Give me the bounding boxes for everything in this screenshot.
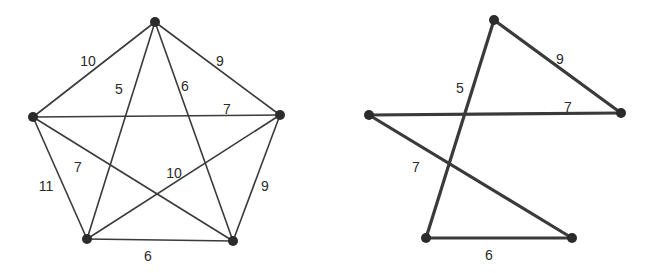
vertex-A — [150, 17, 160, 27]
edge-weight-label: 9 — [216, 53, 224, 69]
edge-AB — [33, 22, 155, 117]
complete-graph: 1095671171096 — [28, 17, 285, 264]
edge-weight-label: 10 — [166, 165, 182, 181]
vertex-E — [228, 236, 238, 246]
vertex-A — [489, 15, 499, 25]
edge-AD — [426, 20, 494, 238]
edge-BE — [33, 117, 233, 241]
edge-BC — [369, 113, 621, 115]
vertex-E — [567, 233, 577, 243]
edge-weight-label: 6 — [181, 78, 189, 94]
edge-weight-label: 9 — [556, 51, 564, 67]
edge-AD — [87, 22, 155, 239]
edge-weight-label: 6 — [485, 247, 493, 263]
vertex-B — [28, 112, 38, 122]
graph-diagram: 109567117109695776 — [0, 0, 655, 273]
edge-weight-label: 7 — [74, 159, 82, 175]
edge-weight-label: 5 — [456, 80, 464, 96]
vertex-D — [82, 234, 92, 244]
edge-weight-label: 9 — [261, 178, 269, 194]
hamiltonian-cycle: 95776 — [364, 15, 626, 263]
edge-weight-label: 7 — [223, 101, 231, 117]
vertex-B — [364, 110, 374, 120]
edge-CD — [87, 115, 280, 239]
edge-CE — [233, 115, 280, 241]
edge-weight-label: 5 — [115, 81, 123, 97]
vertex-D — [421, 233, 431, 243]
edge-BE — [369, 115, 572, 238]
vertex-C — [275, 110, 285, 120]
vertex-C — [616, 108, 626, 118]
edge-weight-label: 6 — [144, 248, 152, 264]
edge-weight-label: 7 — [564, 99, 572, 115]
edge-BC — [33, 115, 280, 117]
edge-DE — [87, 239, 233, 241]
edge-weight-label: 11 — [39, 178, 54, 194]
edge-weight-label: 10 — [80, 53, 96, 69]
edge-weight-label: 7 — [412, 159, 420, 175]
